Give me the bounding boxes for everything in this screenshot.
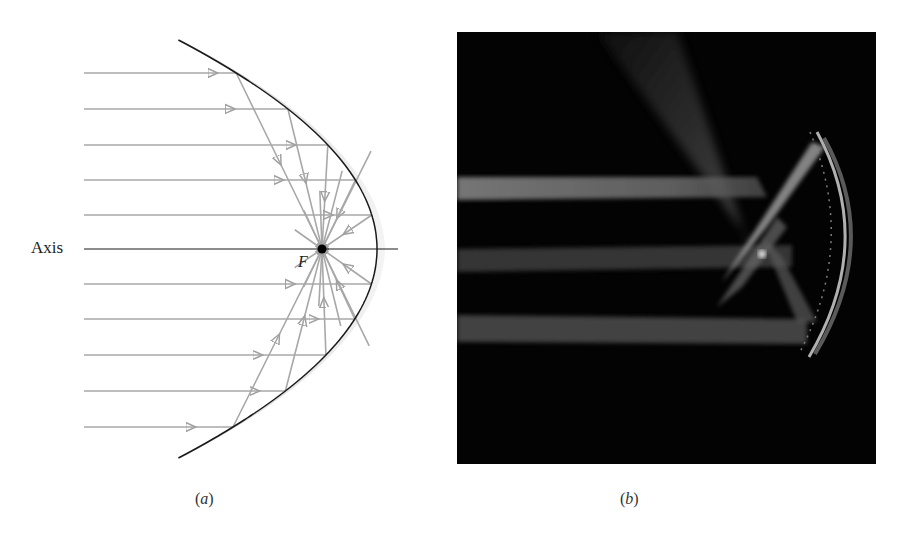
figure-a-parabolic-mirror-diagram: Axis F [0,0,440,537]
reflected-ray [285,171,342,391]
figure-b-mirror-photograph [457,32,876,464]
caption-b-close: ) [633,490,638,507]
reflected-ray [304,211,355,320]
focal-point-label: F [298,253,308,271]
light-rays [84,73,372,427]
incident-beam-bottom [457,315,807,344]
focal-point-dot [318,245,327,254]
caption-b: (b) [620,490,639,508]
focus-glow [758,250,766,258]
caption-a: (a) [195,490,214,508]
reflected-beam-upper [597,32,757,250]
reflected-ray [236,73,369,346]
mirror-edge [809,132,845,357]
incident-beam-top [457,177,767,200]
axis-label: Axis [31,238,63,258]
reflected-ray [233,151,371,427]
ray-diagram-svg [0,0,440,537]
incident-beam-middle [457,245,792,272]
photo-render-svg [457,32,876,464]
caption-a-close: ) [208,490,213,507]
reflected-ray [288,109,341,326]
